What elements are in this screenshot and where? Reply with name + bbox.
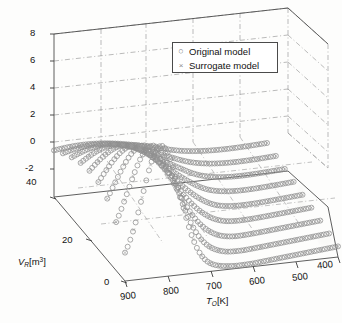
- cross-marker-icon: ×: [173, 62, 189, 70]
- figure-3d-scatter-plot: 8 6 4 2 0 -2 40 20 0 900 800 700 600 500…: [0, 0, 342, 323]
- data-point-surrogate: [106, 197, 109, 200]
- circle-marker-icon: ○: [173, 47, 189, 56]
- y-axis-title-unit: [m: [29, 256, 40, 267]
- x-tick-900: 900: [119, 289, 136, 302]
- y-axis-title-unit-close: ]: [43, 256, 46, 267]
- data-point-original: [119, 206, 124, 211]
- data-point-original: [141, 189, 146, 194]
- z-tick-6: 6: [30, 54, 35, 65]
- legend-label-surrogate: Surrogate model: [189, 60, 259, 71]
- y-tick-20: 20: [62, 234, 73, 245]
- data-point-original: [107, 164, 112, 169]
- z-tick-4: 4: [30, 81, 35, 92]
- z-tick-2: 2: [30, 108, 35, 119]
- x-tick-800: 800: [162, 284, 179, 297]
- x-tick-400: 400: [316, 258, 333, 271]
- data-point-original: [196, 234, 201, 239]
- x-axis-title: TO[K]: [206, 295, 229, 307]
- data-point-original: [193, 216, 198, 221]
- data-point-surrogate: [105, 168, 108, 171]
- data-point-original: [107, 191, 112, 196]
- data-point-surrogate: [88, 169, 91, 172]
- data-point-original: [194, 245, 199, 250]
- y-axis-title: VR[m3]: [18, 256, 46, 268]
- data-point-original: [136, 210, 141, 215]
- data-point-original: [146, 168, 151, 173]
- legend-entry-surrogate: × Surrogate model: [173, 58, 277, 73]
- data-point-original: [110, 185, 115, 190]
- z-tick-0: 0: [30, 135, 35, 146]
- y-tick-40: 40: [26, 176, 37, 187]
- data-point-surrogate: [200, 254, 203, 257]
- data-points-layer: [52, 140, 341, 268]
- data-point-original: [109, 160, 114, 165]
- data-point-original: [188, 220, 193, 225]
- x-axis-title-unit: [K]: [217, 295, 229, 306]
- data-point-original: [121, 164, 126, 169]
- data-point-surrogate: [182, 193, 185, 196]
- axes-grid-back-wall: [54, 8, 288, 142]
- data-point-surrogate: [115, 221, 118, 224]
- data-point-original: [138, 199, 143, 204]
- data-point-surrogate: [191, 225, 194, 228]
- x-axis-ticks: [125, 257, 340, 287]
- data-point-original: [118, 169, 123, 174]
- axes-grid-right-wall: [288, 8, 328, 168]
- data-point-original: [124, 192, 129, 197]
- data-point-surrogate: [97, 181, 100, 184]
- data-point-original: [128, 237, 133, 242]
- data-point-original: [125, 244, 130, 249]
- z-tick-minus2: -2: [25, 162, 33, 173]
- data-point-original: [133, 220, 138, 225]
- y-tick-0: 0: [104, 276, 109, 287]
- legend: ○ Original model × Surrogate model: [172, 42, 278, 73]
- data-point-surrogate: [141, 196, 144, 199]
- data-point-surrogate: [124, 251, 127, 254]
- legend-entry-original: ○ Original model: [173, 44, 277, 59]
- x-tick-700: 700: [205, 279, 222, 292]
- data-point-surrogate: [200, 238, 203, 241]
- data-point-original: [189, 233, 194, 238]
- data-point-original: [138, 157, 143, 162]
- data-point-original: [116, 213, 121, 218]
- legend-label-original: Original model: [189, 46, 250, 57]
- z-tick-8: 8: [30, 27, 35, 38]
- x-tick-600: 600: [248, 274, 265, 287]
- data-point-original: [132, 170, 137, 175]
- plot-canvas: [0, 0, 342, 323]
- x-tick-500: 500: [291, 270, 308, 283]
- data-point-original: [130, 229, 135, 234]
- data-point-original: [135, 163, 140, 168]
